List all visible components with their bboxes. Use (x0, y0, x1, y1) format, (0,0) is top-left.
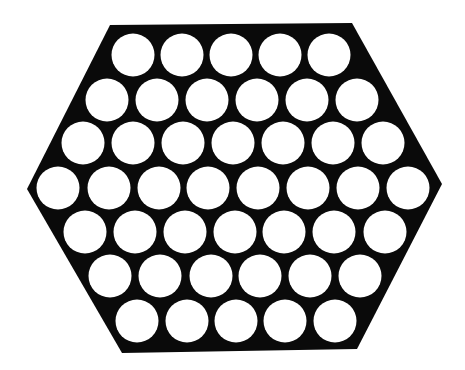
hole-r4-c2 (88, 167, 131, 210)
hole-r6-c4 (239, 255, 282, 298)
hole-r3-c1 (62, 122, 105, 165)
hole-r2-c4 (236, 79, 279, 122)
hole-r7-c1 (116, 300, 159, 343)
hole-r4-c5 (237, 167, 280, 210)
hole-r6-c3 (190, 255, 233, 298)
hole-r4-c3 (138, 167, 181, 210)
hole-r4-c8 (387, 167, 430, 210)
hole-r3-c3 (162, 122, 205, 165)
hole-r5-c4 (214, 211, 257, 254)
hole-r6-c1 (89, 255, 132, 298)
hole-r2-c2 (136, 79, 179, 122)
hole-r1-c2 (161, 34, 204, 77)
hole-r4-c1 (37, 167, 80, 210)
hole-r1-c1 (112, 34, 155, 77)
hole-r6-c5 (289, 255, 332, 298)
hole-r5-c3 (164, 211, 207, 254)
hole-r3-c5 (262, 122, 305, 165)
hole-r5-c1 (64, 211, 107, 254)
hole-r2-c5 (286, 79, 329, 122)
hole-r7-c5 (314, 300, 357, 343)
hole-r2-c1 (86, 79, 129, 122)
hole-r5-c7 (364, 211, 407, 254)
hex-plate-diagram (0, 0, 465, 370)
hole-r6-c6 (339, 255, 382, 298)
hole-r4-c4 (187, 167, 230, 210)
hole-r7-c3 (215, 300, 258, 343)
hole-r5-c2 (114, 211, 157, 254)
hole-r3-c2 (112, 122, 155, 165)
hole-r3-c7 (362, 122, 405, 165)
hole-r2-c6 (336, 79, 379, 122)
hole-r1-c5 (308, 34, 351, 77)
hole-r4-c7 (337, 167, 380, 210)
hole-r1-c3 (210, 34, 253, 77)
hole-r7-c4 (264, 300, 307, 343)
hole-r4-c6 (287, 167, 330, 210)
hole-r7-c2 (166, 300, 209, 343)
hole-r2-c3 (186, 79, 229, 122)
hole-r5-c6 (313, 211, 356, 254)
hole-r1-c4 (259, 34, 302, 77)
hole-r3-c6 (312, 122, 355, 165)
hole-r3-c4 (212, 122, 255, 165)
hole-r5-c5 (263, 211, 306, 254)
hole-r6-c2 (139, 255, 182, 298)
